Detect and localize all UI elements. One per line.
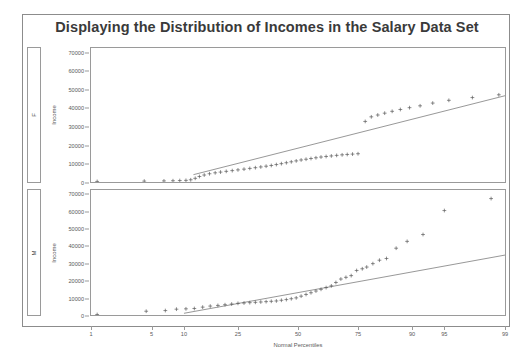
y-tick-labels-f: 010000200003000040000500006000070000 [50,45,84,185]
data-point-group [95,93,500,182]
x-tick-mark [358,326,359,330]
y-tick-label: 10000 [68,296,84,302]
y-tick-label: 0 [81,180,84,186]
data-point-group [95,197,493,315]
y-tick-label: 30000 [68,124,84,130]
x-tick-label: 10 [181,331,187,337]
strip-label-m: M [31,250,37,255]
y-tick-labels-m: 010000200003000040000500006000070000 [50,187,84,318]
y-tick-mark [85,211,89,212]
y-tick-mark [85,281,89,282]
panel-stack: F Income 0100002000030000400005000060000… [24,45,510,326]
y-tick-label: 30000 [68,261,84,267]
y-tick-mark [85,229,89,230]
y-tick-mark [85,71,89,72]
y-tick-mark [85,164,89,165]
y-tick-mark [85,194,89,195]
x-tick-mark [184,326,185,330]
y-tick-label: 70000 [68,50,84,56]
y-tick-mark [85,145,89,146]
plot-area-f [90,47,506,183]
y-tick-mark [85,246,89,247]
y-tick-label: 40000 [68,105,84,111]
y-tick-mark [85,52,89,53]
x-tick-mark [91,326,92,330]
page-title: Displaying the Distribution of Incomes i… [23,19,511,35]
x-tick-label: 25 [235,331,241,337]
y-tick-label: 70000 [68,191,84,197]
x-axis-ticks: 1510255075909599 [90,326,506,327]
panel-f: F Income 0100002000030000400005000060000… [24,45,510,185]
y-tick-mark [85,89,89,90]
reference-line [193,96,505,175]
x-tick-mark [444,326,445,330]
y-tick-label: 20000 [68,143,84,149]
x-tick-mark [412,326,413,330]
y-tick-label: 0 [81,313,84,319]
plot-svg-m [91,190,505,315]
y-tick-mark [85,298,89,299]
panel-m: M Income 0100002000030000400005000060000… [24,187,510,318]
y-tick-mark [85,316,89,317]
x-tick-mark [505,326,506,330]
y-tick-label: 60000 [68,209,84,215]
strip-box-m: M [27,189,41,316]
y-tick-label: 40000 [68,243,84,249]
x-tick-mark [238,326,239,330]
strip-label-f: F [31,113,37,117]
strip-box-f: F [27,47,41,183]
x-tick-label: 50 [295,331,301,337]
y-tick-label: 20000 [68,278,84,284]
x-axis-title: Normal Percentiles [90,342,506,348]
x-tick-label: 90 [409,331,415,337]
x-tick-mark [298,326,299,330]
y-tick-mark [85,183,89,184]
y-tick-label: 60000 [68,68,84,74]
x-tick-label: 75 [355,331,361,337]
plot-area-m [90,189,506,316]
plot-svg-f [91,48,505,182]
y-tick-label: 10000 [68,161,84,167]
reference-line [184,255,505,313]
y-tick-label: 50000 [68,226,84,232]
x-tick-mark [152,326,153,330]
y-tick-mark [85,263,89,264]
y-tick-label: 50000 [68,87,84,93]
y-tick-mark [85,108,89,109]
x-tick-label: 99 [502,331,508,337]
y-tick-mark [85,127,89,128]
x-axis: 1510255075909599 Normal Percentiles [24,326,510,328]
x-tick-label: 1 [89,331,92,337]
x-tick-label: 5 [150,331,153,337]
report-frame: Displaying the Distribution of Incomes i… [22,14,510,327]
x-tick-label: 95 [441,331,447,337]
